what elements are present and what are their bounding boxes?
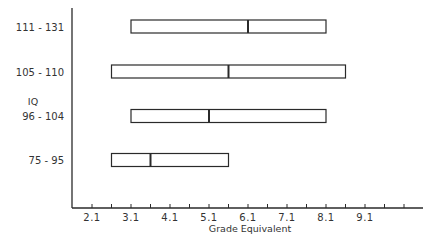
x-tick-label: 5.1 [200, 212, 217, 223]
range-bar-chart: 2.13.14.15.16.17.18.19.1111 - 131105 - 1… [0, 0, 434, 246]
y-axis-title: IQ [28, 96, 38, 107]
axes [72, 8, 423, 208]
x-tick-label: 4.1 [161, 212, 178, 223]
category-label: 96 - 104 [22, 111, 64, 122]
x-tick-label: 2.1 [83, 212, 100, 223]
range-bar [112, 154, 229, 167]
range-box [131, 110, 326, 123]
range-box [131, 20, 326, 33]
range-bar [112, 65, 346, 78]
range-box [112, 154, 229, 167]
range-bar [131, 110, 326, 123]
x-tick-label: 3.1 [122, 212, 139, 223]
range-bar [131, 20, 326, 33]
x-tick-label: 7.1 [278, 212, 295, 223]
category-label: 105 - 110 [16, 67, 64, 78]
x-axis-title: Grade Equivalent [209, 223, 292, 234]
x-tick-label: 8.1 [317, 212, 334, 223]
category-label: 75 - 95 [29, 155, 64, 166]
x-tick-label: 6.1 [239, 212, 256, 223]
bars [112, 20, 346, 167]
category-label: 111 - 131 [16, 22, 64, 33]
x-tick-label: 9.1 [356, 212, 373, 223]
